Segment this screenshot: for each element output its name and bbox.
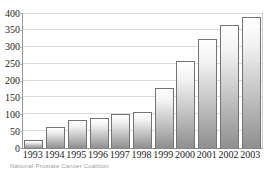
x-tick-label: 1996 (87, 150, 109, 160)
y-tick-label: 250 (1, 58, 20, 69)
x-tick-label: 2002 (218, 150, 240, 160)
x-tick-label: 2001 (196, 150, 218, 160)
bar-2000 (176, 61, 195, 148)
bar-1994 (46, 127, 65, 148)
y-tick-mark (19, 81, 22, 82)
source-caption: National Prostate Cancer Coalition (10, 163, 109, 170)
y-tick-mark (19, 47, 22, 48)
bar-1997 (111, 114, 130, 148)
y-tick-label: 350 (1, 24, 20, 35)
bar-2003 (242, 17, 261, 148)
y-tick-label: 150 (1, 92, 20, 103)
x-tick-label: 1998 (131, 150, 153, 160)
y-tick-label: 200 (1, 75, 20, 86)
y-tick-mark (19, 13, 22, 14)
x-tick-label: 2003 (239, 150, 261, 160)
bar-1999 (155, 88, 174, 148)
gridline (23, 13, 262, 14)
bar-1998 (133, 112, 152, 148)
y-tick-mark (19, 148, 22, 149)
bar-1995 (68, 120, 87, 148)
plot-area (22, 13, 263, 149)
x-tick-label: 1995 (65, 150, 87, 160)
x-tick-label: 1994 (44, 150, 66, 160)
x-tick-label: 2000 (174, 150, 196, 160)
bar-1996 (90, 118, 109, 148)
y-tick-mark (19, 131, 22, 132)
y-tick-mark (19, 114, 22, 115)
y-tick-label: 300 (1, 41, 20, 52)
bar-2002 (220, 25, 239, 148)
bar-1993 (24, 140, 43, 148)
y-tick-mark (19, 30, 22, 31)
y-tick-mark (19, 64, 22, 65)
y-tick-label: 400 (1, 8, 20, 19)
x-tick-label: 1999 (152, 150, 174, 160)
y-tick-label: 100 (1, 109, 20, 120)
bar-2001 (198, 39, 217, 148)
x-tick-label: 1993 (22, 150, 44, 160)
bar-chart-figure: 050100150200250300350400 199319941995199… (0, 0, 265, 177)
y-tick-label: 50 (1, 126, 20, 137)
y-tick-label: 0 (1, 143, 20, 154)
x-tick-label: 1997 (109, 150, 131, 160)
y-tick-mark (19, 97, 22, 98)
